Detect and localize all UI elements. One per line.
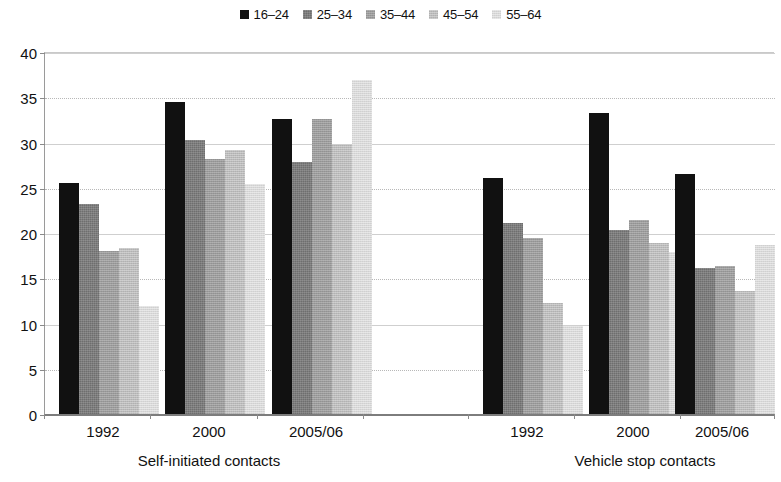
x-tick-mark-5 bbox=[574, 414, 575, 419]
x-tick-mark-1 bbox=[150, 414, 151, 419]
bar-55-64-2005-06-g3 bbox=[352, 80, 372, 415]
y-tick-label-0: 0 bbox=[29, 407, 37, 424]
y-tick-mark-30 bbox=[40, 144, 45, 145]
bar-25-34-2000-g5 bbox=[609, 230, 629, 415]
bar-55-64-2000-g2 bbox=[245, 184, 265, 415]
y-tick-mark-20 bbox=[40, 234, 45, 235]
chart-plot-area: 0510152025303540 bbox=[44, 52, 774, 415]
y-tick-label-35: 35 bbox=[20, 90, 37, 107]
legend-entry-25-34: 25–34 bbox=[303, 7, 352, 22]
bar-16-24-2005-06-g6 bbox=[675, 174, 695, 415]
y-tick-label-30: 30 bbox=[20, 135, 37, 152]
x-axis-baseline bbox=[44, 414, 774, 416]
bar-45-54-1992-g1 bbox=[119, 248, 139, 415]
bar-cluster-6 bbox=[675, 53, 775, 415]
y-tick-mark-5 bbox=[40, 370, 45, 371]
legend-entry-45-54: 45–54 bbox=[429, 7, 478, 22]
x-tick-label-right-2000: 2000 bbox=[616, 423, 649, 440]
x-tick-mark-7 bbox=[774, 414, 775, 419]
legend-entry-55-64: 55–64 bbox=[492, 7, 541, 22]
chart-legend: 16–24 25–34 35–44 45–54 55–64 bbox=[0, 4, 781, 24]
legend-swatch-icon-16-24 bbox=[240, 10, 249, 19]
y-tick-mark-40 bbox=[40, 53, 45, 54]
x-tick-label-left-200506: 2005/06 bbox=[289, 423, 343, 440]
y-tick-mark-35 bbox=[40, 98, 45, 99]
bar-45-54-2005-06-g3 bbox=[332, 145, 352, 415]
bar-16-24-2000-g2 bbox=[165, 102, 185, 415]
bar-45-54-2000-g5 bbox=[649, 243, 669, 415]
legend-entry-16-24: 16–24 bbox=[240, 7, 289, 22]
x-tick-mark-0 bbox=[44, 414, 45, 419]
bar-cluster-2 bbox=[165, 53, 265, 415]
legend-label-55-64: 55–64 bbox=[506, 7, 541, 22]
y-tick-label-25: 25 bbox=[20, 180, 37, 197]
legend-label-16-24: 16–24 bbox=[254, 7, 289, 22]
bar-16-24-1992-g1 bbox=[59, 183, 79, 415]
x-tick-mark-3 bbox=[363, 414, 364, 419]
bar-55-64-2005-06-g6 bbox=[755, 245, 775, 415]
bar-25-34-2005-06-g6 bbox=[695, 268, 715, 416]
panel-label-vehicle-stop-contacts: Vehicle stop contacts bbox=[575, 452, 716, 469]
panel-label-self-initiated-contacts: Self-initiated contacts bbox=[138, 452, 281, 469]
bar-16-24-2000-g5 bbox=[589, 113, 609, 415]
bar-cluster-3 bbox=[272, 53, 372, 415]
bar-cluster-5 bbox=[589, 53, 689, 415]
bar-25-34-2000-g2 bbox=[185, 140, 205, 415]
bar-16-24-1992-g4 bbox=[483, 178, 503, 415]
y-tick-mark-10 bbox=[40, 325, 45, 326]
bar-25-34-2005-06-g3 bbox=[292, 162, 312, 415]
legend-swatch-icon-35-44 bbox=[366, 10, 375, 19]
bar-35-44-2005-06-g6 bbox=[715, 266, 735, 415]
bar-25-34-1992-g1 bbox=[79, 204, 99, 415]
legend-entry-35-44: 35–44 bbox=[366, 7, 415, 22]
bar-35-44-2000-g2 bbox=[205, 159, 225, 415]
x-tick-mark-6 bbox=[680, 414, 681, 419]
legend-label-45-54: 45–54 bbox=[443, 7, 478, 22]
bar-45-54-1992-g4 bbox=[543, 303, 563, 415]
y-tick-label-20: 20 bbox=[20, 226, 37, 243]
y-tick-mark-15 bbox=[40, 279, 45, 280]
legend-swatch-icon-25-34 bbox=[303, 10, 312, 19]
legend-swatch-icon-45-54 bbox=[429, 10, 438, 19]
bar-16-24-2005-06-g3 bbox=[272, 119, 292, 415]
bar-55-64-1992-g4 bbox=[563, 326, 583, 415]
y-tick-label-5: 5 bbox=[29, 361, 37, 378]
bar-cluster-1 bbox=[59, 53, 159, 415]
bar-35-44-2005-06-g3 bbox=[312, 119, 332, 415]
x-tick-mark-4 bbox=[468, 414, 469, 419]
x-tick-label-right-200506: 2005/06 bbox=[695, 423, 749, 440]
bar-55-64-1992-g1 bbox=[139, 306, 159, 415]
bar-35-44-2000-g5 bbox=[629, 220, 649, 415]
bar-25-34-1992-g4 bbox=[503, 223, 523, 415]
legend-label-35-44: 35–44 bbox=[380, 7, 415, 22]
legend-swatch-icon-55-64 bbox=[492, 10, 501, 19]
x-tick-label-left-2000: 2000 bbox=[192, 423, 225, 440]
bar-cluster-4 bbox=[483, 53, 583, 415]
legend-label-25-34: 25–34 bbox=[317, 7, 352, 22]
bar-35-44-1992-g1 bbox=[99, 251, 119, 415]
x-tick-label-right-1992: 1992 bbox=[510, 423, 543, 440]
bar-45-54-2005-06-g6 bbox=[735, 291, 755, 415]
bar-45-54-2000-g2 bbox=[225, 150, 245, 415]
y-tick-label-10: 10 bbox=[20, 316, 37, 333]
x-tick-label-left-1992: 1992 bbox=[86, 423, 119, 440]
y-tick-label-40: 40 bbox=[20, 45, 37, 62]
y-tick-label-15: 15 bbox=[20, 271, 37, 288]
y-tick-mark-25 bbox=[40, 189, 45, 190]
bar-35-44-1992-g4 bbox=[523, 238, 543, 415]
x-tick-mark-2 bbox=[257, 414, 258, 419]
